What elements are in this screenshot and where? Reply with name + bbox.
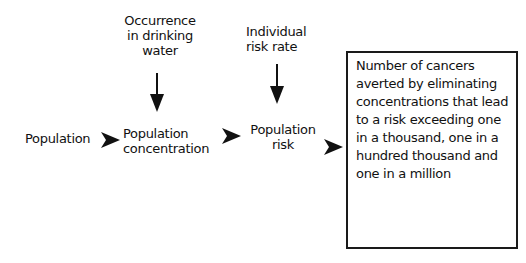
arrow-down-icon [270, 64, 284, 104]
arrow-right-icon [222, 128, 241, 144]
arrows-layer [0, 0, 526, 263]
arrow-right-icon [101, 132, 120, 148]
arrow-right-icon [324, 139, 343, 155]
arrow-down-icon [150, 73, 164, 112]
